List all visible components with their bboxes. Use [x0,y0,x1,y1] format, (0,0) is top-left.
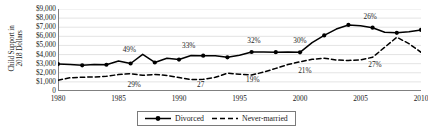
data-point-marker [395,31,399,35]
series-line-never-married [58,37,421,80]
y-axis-tick-label: $7,000 [22,24,56,31]
y-axis-tick-label: $4,000 [22,51,56,58]
y-axis-tick-label: $8,000 [22,14,56,21]
data-point-marker [322,33,326,37]
y-axis-tick-label: $9,000 [22,5,56,12]
data-label: 29% [128,81,141,88]
y-axis-tick-label: $5,000 [22,42,56,49]
legend-item-never-married: Never-married [211,114,288,123]
x-axis-tick-label: 2000 [293,95,308,102]
x-axis-tick-label: 1990 [172,95,187,102]
x-axis-tick-label: 1980 [51,95,66,102]
legend-swatch-dashed [211,114,239,123]
data-point-marker [298,50,302,54]
legend-swatch-solid-marker [144,114,172,123]
data-point-marker [201,54,205,58]
legend-label-divorced: Divorced [175,114,204,123]
x-axis-tick-label: 1995 [232,95,247,102]
data-label: 19% [246,76,259,83]
y-axis-tick-label: $1,000 [22,78,56,85]
x-axis-tick-labels: 1980198519901995200020052010 [0,95,427,107]
data-label: 27% [368,61,381,68]
data-point-marker [250,50,254,54]
data-point-marker [346,23,350,27]
x-axis-tick-label: 2010 [414,95,428,102]
y-axis-tick-label: $2,000 [22,69,56,76]
y-axis-title-line1: Child Support in [8,4,16,92]
y-axis-tick-label: $3,000 [22,60,56,67]
data-series-layer [58,23,421,80]
data-label: 27 [197,81,204,88]
data-point-marker [129,61,133,65]
plot-area: 49%33%32%30%26%29%2719%21%27% [58,9,421,91]
legend-label-never-married: Never-married [242,114,288,123]
data-label: 21% [298,67,311,74]
data-label: 49% [123,47,136,54]
data-label: 33% [182,43,195,50]
data-point-marker [371,26,375,30]
chart-legend: Divorced Never-married [137,111,296,126]
x-axis-tick-label: 1985 [111,95,126,102]
data-point-marker [274,50,278,54]
legend-item-divorced: Divorced [144,114,204,123]
y-axis-tick-label: $6,000 [22,33,56,40]
data-point-marker [419,28,421,32]
data-point-marker [153,60,157,64]
data-point-marker [104,63,108,67]
data-point-marker [177,57,181,61]
data-point-marker [58,62,60,66]
data-label: 30% [293,38,306,45]
data-point-marker [225,55,229,59]
data-point-marker [80,63,84,67]
x-axis-tick-label: 2005 [353,95,368,102]
data-label: 26% [363,14,376,21]
y-axis-tick-labels: 0$1,000$2,000$3,000$4,000$5,000$6,000$7,… [22,0,56,139]
data-label: 32% [247,38,260,45]
